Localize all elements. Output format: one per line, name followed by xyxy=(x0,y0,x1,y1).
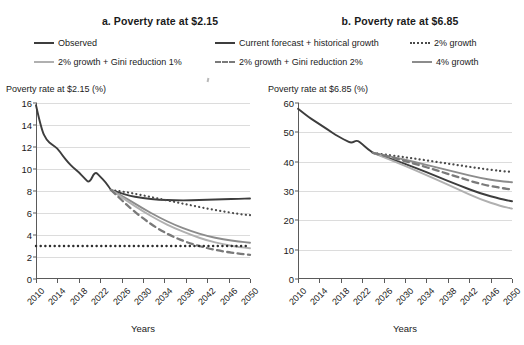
y-tick-label-a-7: 14 xyxy=(21,120,32,131)
panel-b-x-axis-label: Years xyxy=(298,323,512,334)
x-tick-mark xyxy=(57,279,58,283)
legend-label-2pct: 2% growth xyxy=(434,38,477,48)
y-tick-label-a-0: 0 xyxy=(27,274,32,285)
legend-swatch-current-icon xyxy=(215,39,235,48)
legend-label-gini2: 2% growth + Gini reduction 2% xyxy=(239,57,363,67)
chart-panel-a: Poverty rate at $2.15 (%) 02468101214162… xyxy=(0,84,262,345)
legend-label-4pct: 4% growth xyxy=(436,57,479,67)
x-tick-mark xyxy=(229,279,230,283)
y-tick-label-b-3: 30 xyxy=(283,186,294,197)
x-tick-label-b-4: 2026 xyxy=(373,286,394,307)
legend-item-gini-reduction-1: 2% growth + Gini reduction 1% xyxy=(34,57,182,67)
x-tick-mark xyxy=(384,279,385,283)
y-tick-label-b-2: 20 xyxy=(283,215,294,226)
panel-b-y-axis-title: Poverty rate at $6.85 (%) xyxy=(268,84,368,94)
legend-swatch-gini2-icon xyxy=(215,58,235,67)
x-tick-label-a-10: 2050 xyxy=(239,286,260,307)
y-tick-label-a-1: 2 xyxy=(27,252,32,263)
x-tick-mark xyxy=(298,279,299,283)
panel-a-x-axis-label: Years xyxy=(36,323,250,334)
x-tick-mark xyxy=(469,279,470,283)
x-tick-label-b-10: 2050 xyxy=(501,286,522,307)
x-tick-mark xyxy=(143,279,144,283)
x-tick-label-b-7: 2038 xyxy=(437,286,458,307)
x-tick-mark xyxy=(448,279,449,283)
series-line-2-growth-gini-reduction-2 xyxy=(373,153,512,190)
series-line-current-forecast-historical-growth xyxy=(373,153,512,201)
x-tick-mark xyxy=(341,279,342,283)
x-tick-mark xyxy=(36,279,37,283)
panel-a-plot-area: 0246810121416201020142018202220262030203… xyxy=(36,103,250,279)
x-tick-mark xyxy=(362,279,363,283)
legend-item-current-forecast: Current forecast + historical growth xyxy=(215,38,379,48)
series-line-current-forecast-historical-growth xyxy=(111,190,250,200)
x-tick-label-b-0: 2010 xyxy=(287,286,308,307)
x-tick-label-a-1: 2014 xyxy=(47,286,68,307)
x-tick-label-b-6: 2034 xyxy=(416,286,437,307)
x-tick-label-b-5: 2030 xyxy=(394,286,415,307)
series-line-observed xyxy=(36,105,111,190)
x-tick-label-b-3: 2022 xyxy=(351,286,372,307)
x-tick-label-a-9: 2046 xyxy=(218,286,239,307)
legend-item-4pct-growth: 4% growth xyxy=(412,57,479,67)
x-tick-label-a-5: 2030 xyxy=(132,286,153,307)
x-tick-label-a-8: 2042 xyxy=(196,286,217,307)
x-tick-label-b-2: 2018 xyxy=(330,286,351,307)
figure-root: a. Poverty rate at $2.15 b. Poverty rate… xyxy=(0,0,524,345)
x-tick-mark xyxy=(250,279,251,283)
y-tick-label-b-6: 60 xyxy=(283,98,294,109)
y-tick-label-a-4: 8 xyxy=(27,186,32,197)
y-tick-label-a-3: 6 xyxy=(27,208,32,219)
y-tick-label-b-4: 40 xyxy=(283,156,294,167)
x-tick-mark xyxy=(122,279,123,283)
x-tick-mark xyxy=(405,279,406,283)
y-tick-label-b-1: 10 xyxy=(283,244,294,255)
y-tick-label-a-8: 16 xyxy=(21,98,32,109)
x-tick-label-a-0: 2010 xyxy=(25,286,46,307)
y-tick-label-a-2: 4 xyxy=(27,230,32,241)
y-tick-label-a-5: 10 xyxy=(21,164,32,175)
series-line-4-growth xyxy=(111,190,250,243)
x-tick-mark xyxy=(207,279,208,283)
legend-swatch-2pct-icon xyxy=(410,39,430,48)
legend-item-2pct-growth: 2% growth xyxy=(410,38,477,48)
chart-legend: Observed 2% growth + Gini reduction 1% C… xyxy=(0,36,524,76)
x-tick-label-b-1: 2014 xyxy=(309,286,330,307)
legend-label-observed: Observed xyxy=(58,38,97,48)
x-tick-label-a-4: 2026 xyxy=(111,286,132,307)
x-tick-label-b-8: 2042 xyxy=(458,286,479,307)
panel-b-plot-area: 0102030405060201020142018202220262030203… xyxy=(298,103,512,279)
x-tick-label-a-6: 2034 xyxy=(154,286,175,307)
panel-titles: a. Poverty rate at $2.15 b. Poverty rate… xyxy=(0,15,524,31)
x-tick-mark xyxy=(186,279,187,283)
x-tick-label-a-3: 2022 xyxy=(89,286,110,307)
scan-artifact xyxy=(207,78,210,82)
x-tick-mark xyxy=(164,279,165,283)
series-line-observed xyxy=(298,109,373,153)
x-tick-mark xyxy=(319,279,320,283)
x-tick-mark xyxy=(79,279,80,283)
series-layer xyxy=(298,103,512,279)
x-tick-mark xyxy=(491,279,492,283)
legend-swatch-gini1-icon xyxy=(34,58,54,67)
x-tick-label-a-2: 2018 xyxy=(68,286,89,307)
panel-b-title: b. Poverty rate at $6.85 xyxy=(300,15,500,27)
legend-swatch-observed-icon xyxy=(34,39,54,48)
series-layer xyxy=(36,103,250,279)
legend-item-gini-reduction-2: 2% growth + Gini reduction 2% xyxy=(215,57,363,67)
x-tick-mark xyxy=(512,279,513,283)
legend-label-gini1: 2% growth + Gini reduction 1% xyxy=(58,57,182,67)
x-tick-mark xyxy=(426,279,427,283)
chart-panel-b: Poverty rate at $6.85 (%) 01020304050602… xyxy=(262,84,524,345)
y-tick-label-a-6: 12 xyxy=(21,142,32,153)
legend-swatch-4pct-icon xyxy=(412,58,432,67)
y-tick-label-b-0: 0 xyxy=(289,274,294,285)
panel-a-title: a. Poverty rate at $2.15 xyxy=(60,15,260,27)
x-tick-label-a-7: 2038 xyxy=(175,286,196,307)
x-tick-label-b-9: 2046 xyxy=(480,286,501,307)
legend-label-current: Current forecast + historical growth xyxy=(239,38,379,48)
x-tick-mark xyxy=(100,279,101,283)
y-tick-label-b-5: 50 xyxy=(283,127,294,138)
legend-item-observed: Observed xyxy=(34,38,97,48)
panel-a-y-axis-title: Poverty rate at $2.15 (%) xyxy=(6,84,106,94)
